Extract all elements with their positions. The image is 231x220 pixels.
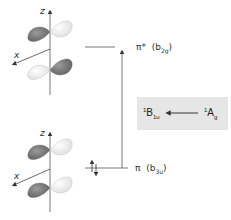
ground-state-sub: g <box>214 114 217 120</box>
transition-arrow-layer <box>0 0 231 220</box>
ground-state-symbol: A <box>207 107 214 118</box>
ground-state-label: 1Ag <box>204 107 217 120</box>
